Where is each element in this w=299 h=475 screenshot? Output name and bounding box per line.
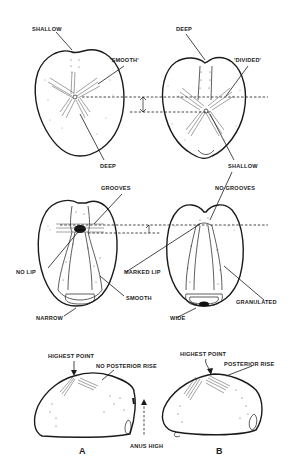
label-highest-point-a: HIGHEST POINT — [48, 354, 94, 360]
label-posterior-rise: POSTERIOR RISE — [224, 362, 274, 368]
label-deep-groove: DEEP — [176, 27, 192, 33]
diagram-drawing — [0, 0, 299, 475]
label-anus-high: ANUS HIGH — [130, 444, 163, 450]
label-shallow-groove: SHALLOW — [32, 27, 62, 33]
label-smooth-plastron: SMOOTH — [126, 296, 152, 302]
label-narrow: NARROW — [36, 316, 63, 322]
label-no-grooves: NO GROOVES — [215, 186, 255, 192]
test-a-aboral-view — [35, 50, 124, 156]
echinoid-comparison-diagram: SHALLOW 'SMOOTH' DEEP DEEP 'DIVIDED' SHA… — [0, 0, 299, 475]
figure-letter-a: A — [79, 446, 86, 456]
label-deep-petals: DEEP — [100, 164, 116, 170]
label-wide: WIDE — [170, 316, 185, 322]
label-no-posterior-rise: NO POSTERIOR RISE — [96, 364, 157, 370]
label-marked-lip: MARKED LIP — [124, 270, 161, 276]
label-divided-petals: 'DIVIDED' — [234, 58, 261, 64]
test-a-oral-view — [38, 200, 117, 306]
label-smooth-petals: 'SMOOTH' — [110, 58, 139, 64]
label-grooves: GROOVES — [101, 186, 131, 192]
test-b-oral-view — [167, 205, 244, 307]
label-highest-point-b: HIGHEST POINT — [180, 352, 226, 358]
label-shallow-petals: SHALLOW — [228, 164, 258, 170]
test-b-aboral-view — [163, 58, 246, 159]
label-granulated: GRANULATED — [236, 300, 277, 306]
test-a-lateral-view — [35, 373, 136, 437]
test-b-lateral-view — [163, 374, 263, 437]
figure-letter-b: B — [216, 446, 223, 456]
label-no-lip: NO LIP — [16, 270, 36, 276]
